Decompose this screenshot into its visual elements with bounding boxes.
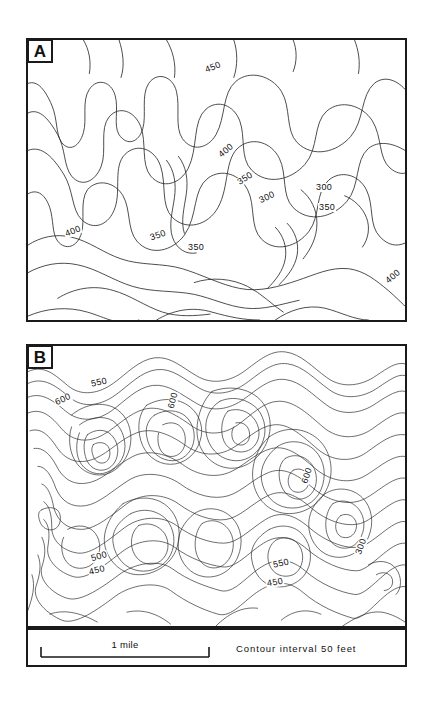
contour-elevation-label: 350: [318, 203, 336, 212]
contour-elevation-label: 300: [315, 183, 333, 192]
scale-bar: 1 mile: [40, 639, 210, 661]
map-panel-a: A: [26, 38, 407, 322]
contour-lines-panel-b: [28, 346, 405, 626]
contour-elevation-label: 350: [187, 243, 205, 252]
panel-a-tag: A: [27, 39, 53, 63]
contour-interval-note: Contour interval 50 feet: [236, 643, 356, 654]
topographic-map-figure: A: [0, 0, 430, 702]
map-panel-b: B: [26, 344, 407, 628]
scale-legend-box: 1 mile Contour interval 50 feet: [26, 628, 407, 667]
scale-bar-label: 1 mile: [40, 639, 210, 650]
panel-b-tag: B: [27, 345, 53, 369]
contour-lines-panel-a: [28, 40, 405, 320]
